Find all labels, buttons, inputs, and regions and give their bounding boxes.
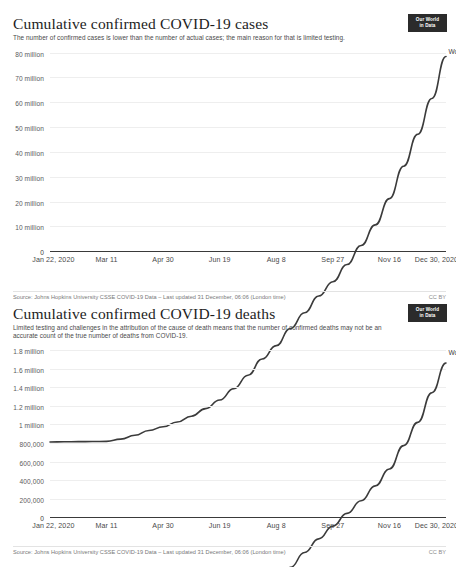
x-axis-ticks-deaths: Jan 22, 2020Mar 11Apr 30Jun 19Aug 8Sep 2… — [50, 520, 446, 534]
y-axis-tick-label: 10 million — [0, 224, 44, 231]
x-axis-tick-label: Dec 30, 2020 — [415, 256, 456, 264]
x-axis-tick-label: Mar 11 — [96, 522, 118, 530]
source-note: Source: Johns Hopkins University CSSE CO… — [13, 294, 286, 300]
logo-line-2: in Data — [408, 23, 447, 29]
y-axis-tick-label: 40 million — [0, 149, 44, 156]
page-title-deaths: Cumulative confirmed COVID-19 deaths — [13, 304, 410, 323]
y-axis-tick-label: 1.2 million — [0, 403, 44, 410]
x-axis-tick-label: Jan 22, 2020 — [32, 256, 74, 264]
x-axis-tick-label: Nov 16 — [378, 522, 401, 530]
source-note-deaths: Source: Johns Hopkins University CSSE CO… — [13, 549, 286, 555]
logo-line-2: in Data — [408, 313, 447, 319]
x-axis-tick-label: Mar 11 — [96, 256, 118, 264]
x-axis-tick-label: Jan 22, 2020 — [32, 522, 74, 530]
series-path-world — [50, 363, 446, 567]
license-note[interactable]: CC BY — [429, 294, 446, 300]
chart-panel-deaths: Cumulative confirmed COVID-19 deaths Lim… — [0, 304, 456, 559]
chart-footer-deaths: Source: Johns Hopkins University CSSE CO… — [13, 546, 446, 559]
x-axis-baseline-deaths — [50, 517, 446, 518]
chart-header-deaths: Cumulative confirmed COVID-19 deaths Lim… — [0, 304, 456, 340]
y-axis-tick-label: 0 — [0, 249, 44, 256]
x-axis-tick-label: Aug 8 — [267, 256, 286, 264]
chart-footer-cases: Source: Johns Hopkins University CSSE CO… — [13, 291, 446, 304]
y-axis-tick-label: 1.8 million — [0, 347, 44, 354]
y-axis-tick-label: 60 million — [0, 100, 44, 107]
series-label-world: World — [448, 48, 456, 55]
x-axis-tick-label: Jun 19 — [209, 256, 231, 264]
y-axis-tick-label: 400,000 — [0, 478, 44, 485]
y-axis-tick-label: 70 million — [0, 75, 44, 82]
plot-area-cases: World — [50, 46, 446, 252]
x-axis-ticks-cases: Jan 22, 2020Mar 11Apr 30Jun 19Aug 8Sep 2… — [50, 254, 446, 268]
our-world-in-data-logo-deaths[interactable]: Our World in Data — [408, 304, 447, 322]
chart-header-cases: Cumulative confirmed COVID-19 cases The … — [0, 14, 456, 42]
license-note-deaths[interactable]: CC BY — [429, 549, 446, 555]
our-world-in-data-logo[interactable]: Our World in Data — [408, 14, 447, 32]
y-axis-tick-label: 0 — [0, 515, 44, 522]
chart-panel-cases: Cumulative confirmed COVID-19 cases The … — [0, 14, 456, 304]
y-axis-tick-label: 1.4 million — [0, 385, 44, 392]
x-axis-baseline — [50, 251, 446, 252]
plot-area-deaths: World — [50, 344, 446, 518]
y-axis-tick-label: 20 million — [0, 199, 44, 206]
x-axis-tick-label: Apr 30 — [152, 522, 174, 530]
plot-wrap-deaths: World 0200,000400,000600,000800,0001 mil… — [0, 344, 456, 534]
y-axis-tick-label: 800,000 — [0, 440, 44, 447]
x-axis-tick-label: Nov 16 — [378, 256, 401, 264]
plot-wrap-cases: World 010 million20 million30 million40 … — [0, 46, 456, 268]
x-axis-tick-label: Jun 19 — [209, 522, 231, 530]
page-title: Cumulative confirmed COVID-19 cases — [13, 14, 410, 33]
y-axis-tick-label: 30 million — [0, 174, 44, 181]
y-axis-tick-label: 50 million — [0, 125, 44, 132]
y-axis-tick-label: 1.6 million — [0, 366, 44, 373]
x-axis-tick-label: Aug 8 — [267, 522, 286, 530]
series-label-world-deaths: World — [448, 349, 456, 356]
x-axis-tick-label: Dec 30, 2020 — [415, 522, 456, 530]
y-axis-tick-label: 1 million — [0, 422, 44, 429]
chart-subtitle-deaths: Limited testing and challenges in the at… — [13, 324, 398, 340]
chart-subtitle: The number of confirmed cases is lower t… — [13, 34, 398, 42]
x-axis-tick-label: Apr 30 — [152, 256, 174, 264]
x-axis-tick-label: Sep 27 — [321, 256, 344, 264]
y-axis-tick-label: 200,000 — [0, 496, 44, 503]
owid-charts-page: Cumulative confirmed COVID-19 cases The … — [0, 0, 456, 567]
y-axis-tick-label: 80 million — [0, 50, 44, 57]
y-axis-tick-label: 600,000 — [0, 459, 44, 466]
x-axis-tick-label: Sep 27 — [321, 522, 344, 530]
